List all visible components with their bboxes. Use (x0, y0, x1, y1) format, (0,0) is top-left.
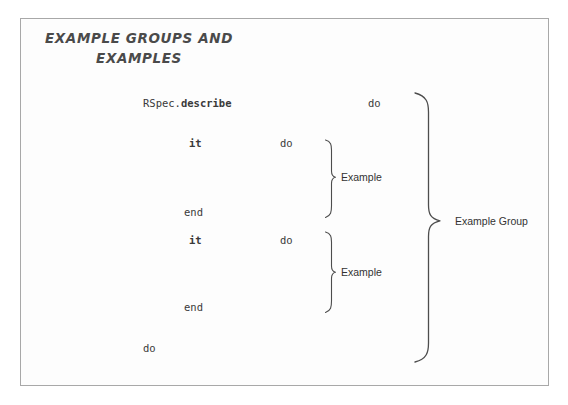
code-token-end-2: end (184, 301, 203, 313)
code-token-end-1: end (184, 206, 203, 218)
slide-frame (20, 18, 549, 386)
annotation-example-2: Example (341, 266, 382, 278)
code-token-do-2: do (280, 137, 293, 149)
code-rspec-prefix: RSpec. (143, 97, 181, 109)
page-title: EXAMPLE GROUPS AND EXAMPLES (34, 28, 244, 68)
code-token-it-1: it (189, 137, 202, 149)
code-token-rspec-describe: RSpec.describe (143, 97, 232, 109)
code-token-do-4: do (143, 342, 156, 354)
annotation-example-1: Example (341, 171, 382, 183)
code-describe-keyword: describe (181, 97, 232, 109)
annotation-example-group: Example Group (455, 215, 528, 227)
code-token-do-1: do (368, 97, 381, 109)
code-token-do-3: do (280, 234, 293, 246)
code-token-it-2: it (189, 234, 202, 246)
